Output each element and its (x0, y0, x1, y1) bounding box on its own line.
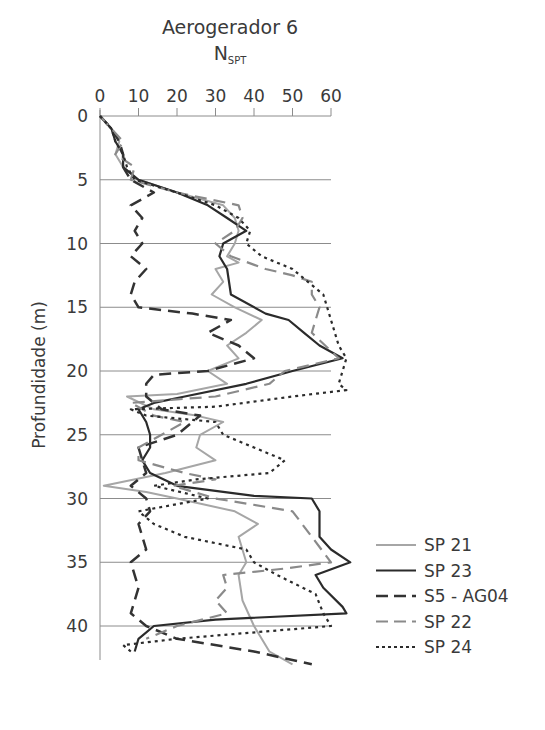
data-series (100, 116, 350, 664)
y-tick-label: 40 (66, 616, 88, 636)
x-tick-label: 10 (128, 86, 150, 106)
y-tick-label: 35 (66, 552, 88, 572)
series-sp-21 (100, 116, 293, 664)
legend-label: SP 24 (424, 637, 472, 657)
legend-label: SP 22 (424, 612, 472, 632)
x-tick-label: 60 (320, 86, 342, 106)
legend-label: S5 - AG04 (424, 586, 509, 606)
x-tick-label: 0 (95, 86, 106, 106)
x-tick-label: 40 (243, 86, 265, 106)
y-tick-label: 25 (66, 425, 88, 445)
legend-label: SP 21 (424, 535, 472, 555)
y-tick-label: 20 (66, 361, 88, 381)
y-tick-label: 15 (66, 297, 88, 317)
legend-label: SP 23 (424, 561, 472, 581)
legend: SP 21SP 23S5 - AG04SP 22SP 24 (376, 535, 509, 657)
y-tick-label: 0 (77, 106, 88, 126)
x-tick-label: 30 (205, 86, 227, 106)
axes: 05101520253035400102030405060 (66, 86, 341, 660)
y-tick-label: 5 (77, 170, 88, 190)
series-sp-22 (100, 116, 339, 639)
y-tick-label: 30 (66, 489, 88, 509)
x-tick-label: 50 (282, 86, 304, 106)
chart-plot: 05101520253035400102030405060 SP 21SP 23… (0, 0, 545, 730)
y-tick-label: 10 (66, 234, 88, 254)
y-axis-title: Profundidade (m) (29, 301, 49, 449)
x-tick-label: 20 (166, 86, 188, 106)
